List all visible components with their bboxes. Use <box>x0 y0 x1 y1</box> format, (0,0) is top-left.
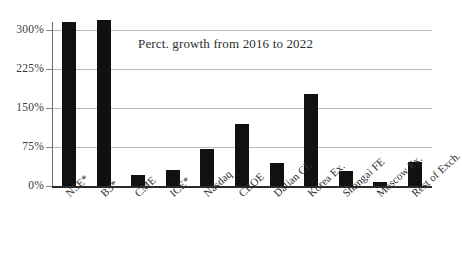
x-tick-label: B3* <box>98 178 120 199</box>
x-tick-label: ICE* <box>167 174 193 199</box>
y-tick-mark <box>46 147 52 148</box>
chart-title: Perct. growth from 2016 to 2022 <box>138 36 313 52</box>
x-tick-label: Nasdaq <box>201 168 234 199</box>
y-tick-mark <box>46 108 52 109</box>
y-tick-mark <box>46 30 52 31</box>
y-tick-mark <box>46 69 52 70</box>
x-tick-label: NSE* <box>63 172 91 199</box>
y-tick-mark <box>46 186 52 187</box>
x-tick-label: CBOE <box>236 170 266 199</box>
x-tick-label: CME <box>132 174 158 199</box>
